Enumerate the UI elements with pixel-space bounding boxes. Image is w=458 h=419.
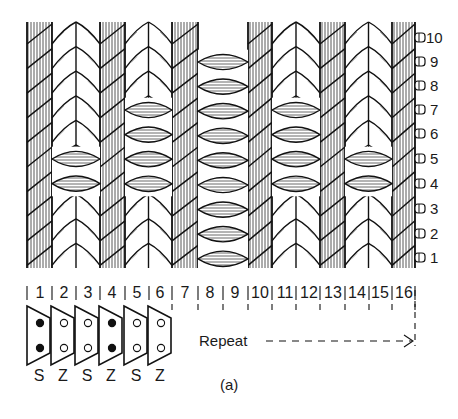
row-label: 9	[430, 54, 438, 69]
fabric-illustration	[0, 0, 458, 419]
column-label: 5	[133, 285, 142, 301]
row-label: 2	[430, 226, 438, 241]
column-label: 9	[231, 285, 240, 301]
row-tick-group	[415, 33, 425, 262]
hatched-wale	[100, 22, 125, 268]
figure-caption: (a)	[220, 377, 238, 392]
tablet-card	[148, 306, 171, 365]
tablet-card	[124, 306, 147, 365]
hatched-wale	[248, 22, 272, 268]
hatched-wale	[172, 22, 198, 268]
weft-float-block	[125, 98, 172, 197]
column-label: 2	[60, 285, 69, 301]
column-label: 1	[36, 285, 45, 301]
row-label: 7	[430, 102, 438, 117]
twist-label: S	[82, 368, 93, 384]
column-label: 7	[181, 285, 190, 301]
column-label: 11	[277, 285, 294, 301]
column-label: 3	[84, 285, 93, 301]
weft-float-block	[345, 147, 392, 197]
row-label: 4	[430, 176, 438, 191]
weft-float-block	[272, 98, 320, 197]
column-label: 12	[300, 285, 318, 301]
row-label: 8	[430, 78, 438, 93]
column-label: 15	[371, 285, 389, 301]
chevron-wale	[52, 22, 100, 268]
tablet-card	[75, 306, 98, 365]
column-label: 10	[251, 285, 269, 301]
tablet-card	[27, 306, 50, 365]
row-label: 3	[430, 201, 438, 216]
twist-label: S	[34, 368, 45, 384]
weft-float-block	[52, 147, 100, 197]
hatched-wale	[320, 22, 345, 268]
hatched-wale	[392, 22, 415, 268]
card-group	[27, 306, 171, 365]
row-label: 10	[426, 30, 443, 45]
column-label: 4	[108, 285, 117, 301]
column-label: 6	[156, 285, 165, 301]
tablet-weave-diagram: 10987654321 12345678910111213141516 SZSZ…	[0, 0, 458, 419]
twist-label: Z	[106, 368, 116, 384]
tablet-card	[99, 306, 122, 365]
twist-label: Z	[155, 368, 165, 384]
repeat-label: Repeat	[199, 333, 247, 348]
column-label: 8	[206, 285, 215, 301]
row-label: 1	[430, 250, 438, 265]
row-label: 6	[430, 126, 438, 141]
twist-label: S	[131, 368, 142, 384]
row-label: 5	[430, 151, 438, 166]
tablet-card	[51, 306, 74, 365]
twist-label: Z	[58, 368, 68, 384]
chevron-wale	[345, 22, 392, 268]
column-label: 13	[324, 285, 342, 301]
hatched-wale	[27, 22, 52, 268]
weft-float-block	[198, 50, 248, 271]
column-label: 14	[348, 285, 366, 301]
column-label: 16	[395, 285, 413, 301]
